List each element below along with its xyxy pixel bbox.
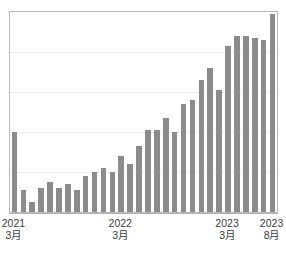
- bar: [83, 176, 89, 212]
- bar: [225, 46, 231, 212]
- bar: [163, 118, 169, 212]
- bar: [261, 40, 267, 212]
- bar: [74, 190, 80, 212]
- x-tick-month: 8月: [252, 229, 286, 241]
- bar: [47, 182, 53, 212]
- bar: [127, 164, 133, 212]
- bar: [38, 188, 44, 212]
- bar: [118, 156, 124, 212]
- x-tick-year: 2023: [252, 217, 286, 229]
- x-axis-line: [9, 213, 278, 214]
- x-tick-label: 20213月: [0, 217, 33, 241]
- bar: [65, 184, 71, 212]
- bar: [172, 132, 178, 212]
- bar: [207, 68, 213, 212]
- bar: [252, 38, 258, 212]
- bar: [110, 172, 116, 212]
- bars-layer: [10, 12, 277, 212]
- bar: [29, 202, 35, 212]
- bar: [216, 90, 222, 212]
- bar: [92, 172, 98, 212]
- bar: [190, 100, 196, 212]
- x-tick-label: 20223月: [100, 217, 140, 241]
- bar: [234, 36, 240, 212]
- bar: [154, 130, 160, 212]
- bar: [56, 188, 62, 212]
- x-tick-month: 3月: [0, 229, 33, 241]
- bar: [101, 168, 107, 212]
- x-tick-label: 20233月: [207, 217, 247, 241]
- x-tick-month: 3月: [100, 229, 140, 241]
- bar: [21, 190, 27, 212]
- bar: [136, 146, 142, 212]
- bar-chart: 20213月20223月20233月20238月: [0, 0, 286, 261]
- bar: [243, 36, 249, 212]
- x-tick-year: 2023: [207, 217, 247, 229]
- x-tick-month: 3月: [207, 229, 247, 241]
- x-tick-year: 2021: [0, 217, 33, 229]
- bar: [145, 130, 151, 212]
- x-tick-label: 20238月: [252, 217, 286, 241]
- bar: [270, 14, 276, 212]
- bar: [181, 104, 187, 212]
- bar: [12, 132, 18, 212]
- bar: [199, 80, 205, 212]
- x-tick-year: 2022: [100, 217, 140, 229]
- plot-area: [9, 11, 278, 213]
